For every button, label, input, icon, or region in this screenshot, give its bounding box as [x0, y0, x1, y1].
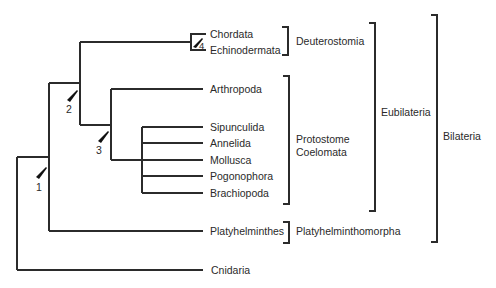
- node-2-label: 2: [66, 103, 72, 115]
- taxon-sipunculida: Sipunculida: [210, 121, 264, 133]
- taxon-arthropoda: Arthropoda: [210, 83, 262, 95]
- taxon-pogonophora: Pogonophora: [210, 170, 273, 182]
- group-deuterostomia: Deuterostomia: [296, 35, 364, 47]
- wedge-icon: [67, 90, 78, 102]
- node-1-marker: 1: [36, 167, 47, 193]
- wedge-icon: [36, 167, 47, 179]
- wedge-icon: [98, 131, 109, 143]
- cladogram: 1 2 3 4 Chordata Echinodermata Arthropod…: [0, 0, 496, 288]
- bracket-protostome-coelomata: [283, 76, 289, 204]
- taxon-echinodermata: Echinodermata: [210, 44, 281, 56]
- group-brackets: Deuterostomia Protostome Coelomata Platy…: [282, 15, 481, 243]
- group-protostome-line-1: Protostome: [296, 133, 350, 145]
- taxon-platyhelminthes: Platyhelminthes: [210, 225, 284, 237]
- taxon-annelida: Annelida: [210, 137, 251, 149]
- node-1-label: 1: [36, 181, 42, 193]
- group-eubilateria: Eubilateria: [381, 106, 431, 118]
- group-bilateria: Bilateria: [443, 130, 481, 142]
- bracket-eubilateria: [369, 23, 375, 211]
- taxon-mollusca: Mollusca: [210, 154, 252, 166]
- taxon-brachiopoda: Brachiopoda: [210, 187, 269, 199]
- bracket-deuterostomia: [282, 27, 288, 55]
- node-4-marker: 4: [193, 38, 204, 51]
- group-protostome-line-2: Coelomata: [296, 146, 347, 158]
- node-3-label: 3: [96, 144, 102, 156]
- node-3-marker: 3: [96, 131, 109, 156]
- group-platyhelminthomorpha: Platyhelminthomorpha: [296, 225, 401, 237]
- bracket-bilateria: [431, 15, 437, 242]
- node-4-label: 4: [199, 40, 204, 51]
- taxon-chordata: Chordata: [210, 28, 253, 40]
- taxon-labels: Chordata Echinodermata Arthropoda Sipunc…: [210, 28, 284, 276]
- branches: [17, 34, 206, 270]
- taxon-cnidaria: Cnidaria: [211, 264, 250, 276]
- node-markers: 1 2 3 4: [36, 38, 204, 193]
- node-2-marker: 2: [66, 90, 78, 115]
